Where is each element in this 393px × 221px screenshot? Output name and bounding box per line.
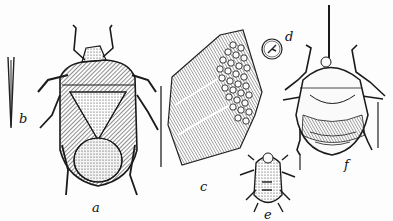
beak-figure-b [8,57,14,128]
label-a: a [92,201,100,214]
egg-detail-figure-d [262,39,282,59]
leaf-egg-mass-figure-c [168,30,262,165]
label-c: c [200,180,207,193]
label-e: e [264,208,272,221]
illustration-canvas: b a c d e f [0,0,393,221]
adult-bug-figure-a [38,25,158,195]
small-nymph-figure-e [240,153,295,212]
label-d: d [285,30,293,43]
nymph-figure-f [283,5,385,155]
label-f: f [344,158,349,171]
illustration-svg [0,0,393,221]
label-b: b [19,112,27,125]
